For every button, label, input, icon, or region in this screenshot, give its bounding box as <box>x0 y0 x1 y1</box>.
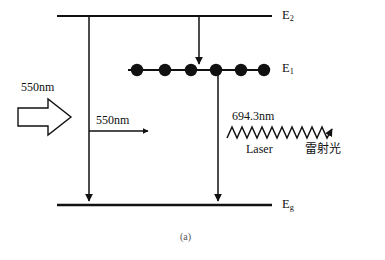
pump-source-label: 550nm <box>21 81 54 93</box>
electron-dot <box>131 64 143 76</box>
energy-level-label-e2: E2 <box>282 9 294 22</box>
electron-dot <box>159 64 171 76</box>
laser-output-wave <box>227 127 332 138</box>
figure-caption: (a) <box>180 232 191 242</box>
electron-dot <box>210 64 222 76</box>
laser-label-chinese: 雷射光 <box>305 143 341 155</box>
electron-dot <box>185 64 197 76</box>
laser-label: Laser <box>246 143 273 155</box>
energy-level-label-eg: Eg <box>282 198 294 211</box>
pump-source-block-arrow <box>18 99 71 135</box>
electron-dot <box>235 64 247 76</box>
energy-level-figure: E2 E1 Eg 550nm 550nm 694.3nm Laser 雷射光 (… <box>0 0 385 260</box>
emission-wavelength-label: 694.3nm <box>232 110 274 122</box>
pump-absorption-label: 550nm <box>96 114 129 126</box>
energy-level-diagram <box>0 0 385 260</box>
electron-dot <box>258 64 270 76</box>
energy-level-label-e1: E1 <box>282 62 294 75</box>
